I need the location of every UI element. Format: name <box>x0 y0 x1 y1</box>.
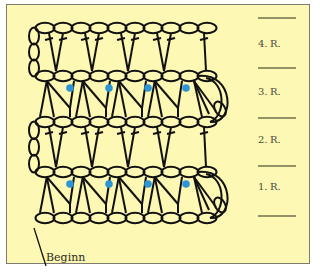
chain-stitch <box>36 213 55 223</box>
chain-stitch <box>90 117 109 127</box>
chain-stitch <box>108 117 127 127</box>
chain-stitch <box>144 23 163 33</box>
stitch-crossbar <box>59 38 67 40</box>
chain-stitch <box>126 167 145 177</box>
chain-stitch <box>54 23 73 33</box>
blue-dot-marker <box>182 180 190 188</box>
chain-stitch <box>180 213 199 223</box>
turning-chain-left <box>29 60 39 77</box>
turning-chain-left <box>29 121 39 139</box>
row-label-1: 1. R. <box>258 181 280 192</box>
chain-stitch <box>126 71 145 81</box>
stitch-crossbar <box>117 38 125 40</box>
blue-dot-marker <box>182 84 190 92</box>
chain-stitch <box>180 167 199 177</box>
chain-stitch <box>180 117 199 127</box>
chain-stitch <box>180 23 199 33</box>
chain-stitch <box>162 167 181 177</box>
stitch-crossbar <box>95 38 103 40</box>
turning-chain-left <box>29 155 39 173</box>
chain-stitch <box>162 213 181 223</box>
stitch-crossbar <box>131 38 139 40</box>
fan-stitch <box>40 81 47 117</box>
chain-stitch <box>162 23 181 33</box>
turning-chain-left <box>29 138 39 156</box>
chain-stitch <box>90 23 109 33</box>
chain-stitch <box>90 213 109 223</box>
chain-stitch <box>162 71 181 81</box>
chain-stitch <box>72 117 91 127</box>
chain-stitch <box>144 71 163 81</box>
chain-stitch <box>108 23 127 33</box>
chain-stitch <box>162 117 181 127</box>
chain-stitch <box>180 71 199 81</box>
turning-chain-left <box>29 44 39 61</box>
chain-stitch <box>54 71 73 81</box>
blue-dot-marker <box>105 84 113 92</box>
fan-stitch <box>40 177 47 213</box>
chain-stitch <box>54 167 73 177</box>
fan-stitch <box>178 177 182 204</box>
fan-stitch <box>142 177 146 204</box>
row-label-3: 3. R. <box>258 86 280 97</box>
chain-stitch <box>90 167 109 177</box>
row-label-4: 4. R. <box>258 38 280 49</box>
chain-stitch <box>108 71 127 81</box>
blue-dot-marker <box>66 84 74 92</box>
stitch-crossbar <box>167 38 175 40</box>
stitch-crossbar <box>131 132 139 134</box>
chain-stitch <box>90 71 109 81</box>
chain-stitch <box>54 117 73 127</box>
chain-stitch <box>144 117 163 127</box>
stitch-crossbar <box>59 132 67 134</box>
stitch-crossbar <box>153 132 161 134</box>
chain-stitch <box>72 71 91 81</box>
stitch-crossbar <box>81 132 89 134</box>
chain-stitch <box>54 213 73 223</box>
blue-dot-marker <box>144 180 152 188</box>
chain-stitch <box>126 23 145 33</box>
chain-stitch <box>72 213 91 223</box>
stitch-crossbar <box>117 132 125 134</box>
start-pointer-line <box>34 228 46 266</box>
stitch-crossbar <box>45 132 53 134</box>
turning-chain-left <box>29 28 39 45</box>
row-label-2: 2. R. <box>258 134 280 145</box>
stitch-crossbar <box>200 38 208 40</box>
blue-dot-marker <box>105 180 113 188</box>
chain-stitch <box>126 117 145 127</box>
chain-stitch <box>126 213 145 223</box>
chain-stitch <box>108 213 127 223</box>
chain-stitch <box>72 23 91 33</box>
fan-stitch <box>76 81 83 117</box>
fan-stitch <box>142 81 146 108</box>
chain-stitch <box>72 167 91 177</box>
stitch-crossbar <box>81 38 89 40</box>
chain-stitch <box>198 23 217 33</box>
blue-dot-marker <box>144 84 152 92</box>
chain-stitch <box>144 167 163 177</box>
stitch-crossbar <box>95 132 103 134</box>
stitch-crossbar <box>153 38 161 40</box>
stitch-crossbar <box>45 38 53 40</box>
fan-stitch <box>178 81 182 108</box>
start-label: Beginn <box>46 251 85 264</box>
stitch-crossbar <box>200 132 208 134</box>
fan-stitch <box>76 177 83 213</box>
chain-stitch <box>108 167 127 177</box>
stitch-crossbar <box>167 132 175 134</box>
chain-stitch <box>144 213 163 223</box>
fan-stitch <box>112 81 119 117</box>
blue-dot-marker <box>66 180 74 188</box>
fan-stitch <box>112 177 119 213</box>
